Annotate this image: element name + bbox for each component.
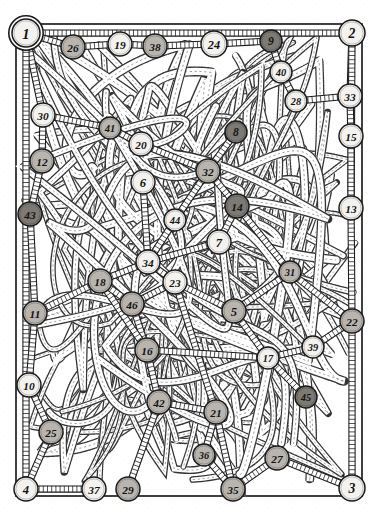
- node-16[interactable]: 16: [135, 338, 159, 362]
- node-19[interactable]: 19: [108, 32, 132, 56]
- node-7[interactable]: 7: [207, 230, 231, 254]
- maze-diagram: 1234261938249402833151330412083212643144…: [0, 0, 378, 519]
- node-31[interactable]: 31: [279, 261, 301, 283]
- node-44[interactable]: 44: [164, 209, 186, 231]
- node-30[interactable]: 30: [31, 103, 55, 127]
- node-29[interactable]: 29: [116, 477, 140, 501]
- ladder-edge: [347, 107, 354, 125]
- node-34[interactable]: 34: [136, 250, 160, 274]
- node-33[interactable]: 33: [338, 84, 362, 108]
- ladder-edge: [348, 219, 355, 310]
- node-10[interactable]: 10: [17, 373, 41, 397]
- node-13[interactable]: 13: [339, 196, 363, 220]
- node-26[interactable]: 26: [61, 35, 85, 59]
- ladder-edge: [349, 332, 355, 476]
- node-8[interactable]: 8: [225, 121, 247, 143]
- node-9[interactable]: 9: [260, 30, 282, 52]
- node-25[interactable]: 25: [39, 420, 63, 444]
- node-41[interactable]: 41: [99, 117, 121, 139]
- node-42[interactable]: 42: [147, 390, 171, 414]
- ladder-edge: [348, 147, 354, 197]
- node-3[interactable]: 3: [339, 475, 365, 501]
- node-36[interactable]: 36: [193, 444, 215, 466]
- ladder-edge: [37, 486, 83, 492]
- ladder-edge: [39, 126, 46, 150]
- node-28[interactable]: 28: [285, 90, 307, 112]
- node-43[interactable]: 43: [18, 202, 42, 226]
- ladder-edge: [23, 46, 29, 478]
- node-12[interactable]: 12: [30, 149, 54, 173]
- node-32[interactable]: 32: [196, 159, 220, 183]
- ladder-edge: [226, 38, 261, 46]
- node-18[interactable]: 18: [88, 269, 112, 293]
- node-6[interactable]: 6: [131, 170, 155, 194]
- ladder-edge: [131, 42, 144, 49]
- node-45[interactable]: 45: [295, 386, 317, 408]
- node-39[interactable]: 39: [302, 336, 324, 358]
- node-1[interactable]: 1: [9, 16, 43, 50]
- node-17[interactable]: 17: [257, 347, 279, 369]
- ladder-edge: [166, 41, 202, 48]
- node-46[interactable]: 46: [120, 292, 144, 316]
- puzzle-canvas: THE NETWORK 1234261938249402833151330412…: [0, 0, 378, 519]
- node-23[interactable]: 23: [163, 270, 187, 294]
- node-5[interactable]: 5: [222, 299, 246, 323]
- node-2[interactable]: 2: [339, 20, 365, 46]
- node-21[interactable]: 21: [204, 400, 228, 424]
- node-37[interactable]: 37: [82, 477, 106, 501]
- node-4[interactable]: 4: [14, 477, 38, 501]
- node-14[interactable]: 14: [225, 194, 249, 218]
- node-11[interactable]: 11: [23, 301, 47, 325]
- node-38[interactable]: 38: [143, 34, 167, 58]
- ladder-edge: [39, 30, 340, 36]
- node-35[interactable]: 35: [221, 477, 245, 501]
- node-22[interactable]: 22: [340, 309, 364, 333]
- node-24[interactable]: 24: [201, 31, 227, 57]
- node-20[interactable]: 20: [129, 132, 153, 156]
- node-27[interactable]: 27: [265, 446, 289, 470]
- ladder-edge: [84, 42, 109, 50]
- node-40[interactable]: 40: [270, 61, 292, 83]
- node-15[interactable]: 15: [339, 124, 363, 148]
